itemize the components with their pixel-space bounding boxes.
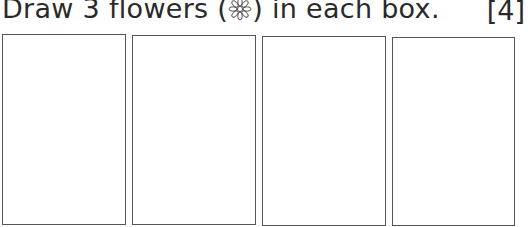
drawing-box-4[interactable]	[392, 37, 515, 226]
question-text: Draw 3 flowers ( ) in each box.	[2, 0, 440, 24]
drawing-box-1[interactable]	[2, 34, 126, 225]
question-text-before: Draw 3 flowers (	[2, 0, 228, 24]
question-text-after: ) in each box.	[252, 0, 440, 24]
drawing-box-3[interactable]	[262, 36, 386, 226]
marks-label: [4]	[487, 0, 525, 26]
drawing-box-2[interactable]	[132, 35, 256, 225]
flower-icon	[228, 0, 252, 21]
